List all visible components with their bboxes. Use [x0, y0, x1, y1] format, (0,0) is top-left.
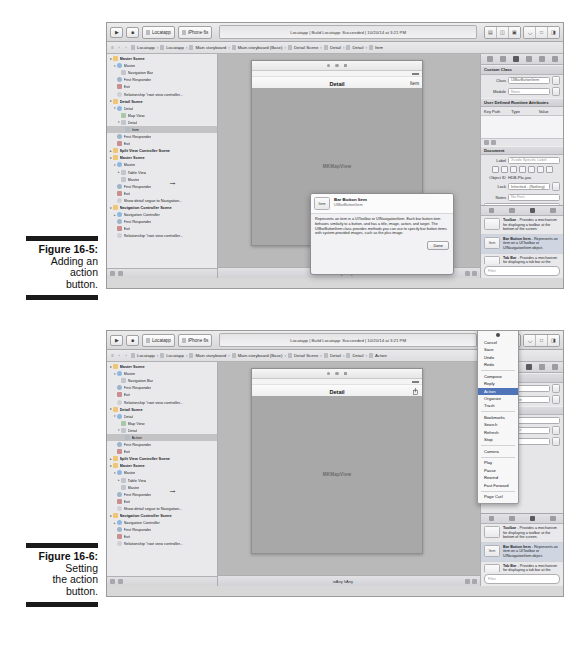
run-button[interactable]: ▶ [110, 27, 123, 38]
library-item[interactable]: ItemBar Button Item - Represents an item… [481, 235, 563, 254]
outline-row[interactable]: First Responder [107, 76, 217, 83]
scheme-selector[interactable]: Locatapp [142, 26, 175, 39]
outline-row[interactable]: Exit [107, 448, 217, 455]
library-tab-bar[interactable] [481, 206, 563, 216]
outline-row[interactable]: ▾Master [107, 469, 217, 476]
map-view[interactable]: MKMapView [252, 396, 422, 553]
run-button[interactable]: ▶ [110, 335, 123, 346]
outline-row[interactable]: First Responder [107, 183, 217, 190]
menu-item[interactable]: Bookmarks [478, 414, 518, 421]
outline-row[interactable]: Exit [107, 533, 217, 540]
module-stepper[interactable] [552, 87, 560, 96]
outline-row[interactable]: Navigation Bar [107, 377, 217, 384]
menu-item[interactable]: Reply [478, 380, 518, 387]
system-item-stepper[interactable] [552, 395, 560, 404]
filter-icon[interactable] [118, 271, 123, 276]
first-responder-dock-icon[interactable] [335, 64, 338, 67]
system-item-dropdown-menu[interactable]: CancelSaveUndoRedoComposeReplyActionOrga… [477, 330, 519, 504]
library-item[interactable]: Toolbar - Provides a mechanism for displ… [481, 216, 563, 235]
outline-row[interactable]: Exit [107, 83, 217, 90]
breadcrumb-item[interactable]: Locatapp [137, 45, 155, 50]
breadcrumb-item[interactable]: Main.storyboard [195, 45, 226, 50]
outline-row[interactable]: Relationship "root view controller... [107, 398, 217, 405]
color-swatch-icon[interactable] [537, 166, 544, 173]
outline-row[interactable]: First Responder [107, 441, 217, 448]
toggle-inspector-icon[interactable]: ◨ [548, 27, 559, 38]
class-field-row[interactable]: Class UIBarButtonItem [481, 75, 563, 86]
zoom-out-icon[interactable] [465, 271, 470, 276]
outline-row[interactable]: ▾Master Scene [107, 154, 217, 161]
outline-row[interactable]: Action [107, 434, 217, 441]
style-stepper[interactable] [552, 384, 560, 393]
menu-scroll-up-indicator[interactable] [478, 332, 518, 339]
outline-row[interactable]: Navigation Bar [107, 69, 217, 76]
detail-scene-device[interactable]: Detail MKMapView [251, 368, 423, 554]
attributes-inspector-icon[interactable] [526, 364, 532, 370]
menu-item[interactable]: Play [478, 459, 518, 466]
outline-row[interactable]: Exit [107, 225, 217, 232]
jump-bar-menu-icon[interactable]: ☰ [110, 46, 114, 50]
view-controller-dock-icon[interactable] [327, 372, 330, 375]
outline-row[interactable]: ▾Detail [107, 105, 217, 112]
menu-groups[interactable]: CancelSaveUndoRedoComposeReplyActionOrga… [478, 339, 518, 501]
outline-row[interactable]: Exit [107, 498, 217, 505]
outline-row[interactable]: Show detail segue to Navigation... [107, 197, 217, 204]
lock-row[interactable]: Lock Inherited - (Nothing) [481, 181, 563, 192]
menu-item[interactable]: Stop [478, 436, 518, 443]
standard-editor-icon[interactable]: ▤ [485, 27, 497, 38]
library-item[interactable]: Tab Bar - Provides a mechanism for displ… [481, 254, 563, 264]
file-template-library-icon[interactable] [489, 208, 495, 214]
scene-dock[interactable] [252, 369, 422, 379]
toggle-debug-icon[interactable]: □ [536, 335, 548, 346]
toggle-navigator-icon[interactable]: ◡ [524, 335, 536, 346]
menu-item[interactable]: Search [478, 421, 518, 428]
exit-dock-icon[interactable] [344, 372, 347, 375]
add-attribute-icon[interactable] [484, 140, 489, 145]
lock-stepper[interactable] [552, 182, 560, 191]
outline-row[interactable]: First Responder [107, 491, 217, 498]
breadcrumb-item[interactable]: Detail Scene [294, 353, 318, 358]
file-inspector-icon[interactable] [487, 56, 493, 62]
breadcrumb-item[interactable]: Locatapp [166, 353, 184, 358]
assistant-editor-icon[interactable]: ◫ [497, 27, 509, 38]
breadcrumb-item[interactable]: Locatapp [137, 353, 155, 358]
outline-row[interactable]: Relationship "root view controller... [107, 232, 217, 239]
module-field-row[interactable]: Module None [481, 86, 563, 97]
destination-selector[interactable]: iPhone 6s [178, 334, 212, 347]
connections-inspector-icon[interactable] [552, 56, 558, 62]
menu-item[interactable]: Action [478, 388, 518, 395]
scheme-selector[interactable]: Locatapp [142, 334, 175, 347]
outline-row[interactable]: Item [107, 126, 217, 133]
size-class-label[interactable]: wAny hAny [221, 579, 465, 584]
class-input[interactable]: UIBarButtonItem [508, 77, 550, 84]
breadcrumb-item[interactable]: Detail [352, 45, 363, 50]
view-toggle-segments[interactable]: ◡ □ ◨ [523, 334, 560, 347]
color-swatch-icon[interactable] [510, 166, 517, 173]
outline-row[interactable]: Exit [107, 140, 217, 147]
library-tab-bar[interactable] [481, 514, 563, 524]
breadcrumb[interactable]: Locatapp › Locatapp › Main.storyboard › … [131, 45, 383, 50]
outline-row[interactable]: ▸Split View Controller Scene [107, 455, 217, 462]
doc-label-input[interactable]: Xcode Specific Label [508, 157, 560, 164]
breadcrumb-item[interactable]: Main.storyboard (Base) [238, 45, 283, 50]
library-item[interactable]: Tab Bar - Provides a mechanism for displ… [481, 562, 563, 572]
jump-bar-menu-icon[interactable]: ☰ [110, 354, 114, 358]
outline-row[interactable]: ▾Detail [107, 427, 217, 434]
outline-row[interactable]: ▾Master [107, 161, 217, 168]
outline-row[interactable]: ▾Master [107, 62, 217, 69]
add-icon[interactable] [110, 271, 115, 276]
menu-item[interactable]: Pause [478, 467, 518, 474]
color-swatch-icon[interactable] [546, 166, 553, 173]
first-responder-dock-icon[interactable] [335, 372, 338, 375]
media-library-icon[interactable] [550, 516, 556, 522]
outline-row[interactable]: ▾Master Scene [107, 55, 217, 62]
view-controller-dock-icon[interactable] [327, 64, 330, 67]
done-button[interactable]: Done [427, 241, 449, 250]
outline-row[interactable]: ▾Master [107, 370, 217, 377]
library-items[interactable]: Toolbar - Provides a mechanism for displ… [481, 216, 563, 264]
lock-select[interactable]: Inherited - (Nothing) [508, 183, 550, 190]
storyboard-canvas[interactable]: Detail MKMapView wAny hAny [218, 362, 480, 586]
breadcrumb[interactable]: Locatapp › Locatapp › Main.storyboard › … [131, 353, 387, 358]
menu-item[interactable]: Camera [478, 448, 518, 455]
file-template-library-icon[interactable] [489, 516, 495, 522]
